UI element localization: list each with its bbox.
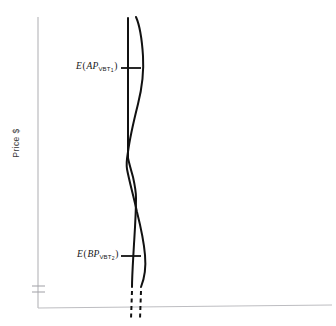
annotation-upper-variable: AP xyxy=(86,61,98,71)
annotation-upper-subscript-index: 1 xyxy=(111,67,114,73)
annotation-label-lower: E(BPVBT2) xyxy=(77,249,119,259)
price-curve-straight xyxy=(128,18,136,287)
annotation-upper-close-paren: ) xyxy=(114,61,118,71)
price-curve-bulged xyxy=(127,17,146,287)
annotation-label-upper: E(APVBT1) xyxy=(76,61,118,71)
annotation-lower-close-paren: ) xyxy=(115,249,119,259)
price-curve-bulged-dashed-tail xyxy=(140,291,141,319)
x-axis-line xyxy=(38,305,332,308)
annotation-lower-variable: BP xyxy=(87,249,99,259)
plot-canvas xyxy=(0,0,336,326)
annotation-upper-subscript: VBT xyxy=(98,66,110,72)
price-curve-straight-dashed-tail xyxy=(131,291,132,319)
annotation-lower-subscript-index: 2 xyxy=(112,255,115,261)
annotation-lower-subscript: VBT xyxy=(99,254,111,260)
y-axis-label: Price $ xyxy=(11,103,21,183)
price-path-figure: Price $ E(APVBT1) E(BPVBT2) xyxy=(0,0,336,326)
